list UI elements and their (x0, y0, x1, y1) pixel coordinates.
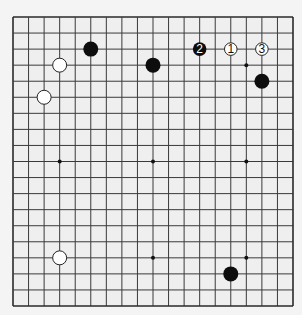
move-number: 1 (227, 42, 234, 56)
stone-disc (37, 90, 51, 104)
stone-disc (53, 251, 67, 265)
white-stone (53, 58, 67, 72)
stone-disc (83, 42, 98, 57)
move-number: 2 (196, 42, 203, 56)
black-stone (146, 58, 161, 73)
black-stone (83, 42, 98, 57)
black-stone (223, 266, 238, 281)
white-stone-move-3: 3 (256, 42, 269, 56)
move-number: 3 (259, 42, 266, 56)
stone-disc (223, 266, 238, 281)
go-board: 123 (0, 0, 302, 315)
white-stone-move-1: 1 (224, 42, 237, 56)
star-point (244, 256, 248, 260)
star-point (151, 160, 155, 164)
star-point (244, 63, 248, 67)
star-point (58, 160, 62, 164)
stone-disc (146, 58, 161, 73)
star-point (244, 160, 248, 164)
white-stone (37, 90, 51, 104)
star-point (151, 256, 155, 260)
stone-disc (254, 74, 269, 89)
stone-disc (53, 58, 67, 72)
white-stone (53, 251, 67, 265)
black-stone (254, 74, 269, 89)
